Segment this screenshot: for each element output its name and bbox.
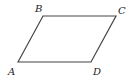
- parallelogram-figure: [0, 0, 131, 78]
- vertex-label-c: C: [118, 6, 126, 16]
- parallelogram-abcd: [18, 16, 116, 62]
- vertex-label-b: B: [35, 4, 42, 14]
- parallelogram-diagram: A B C D: [0, 0, 131, 78]
- vertex-label-a: A: [8, 67, 15, 77]
- vertex-label-d: D: [93, 67, 101, 77]
